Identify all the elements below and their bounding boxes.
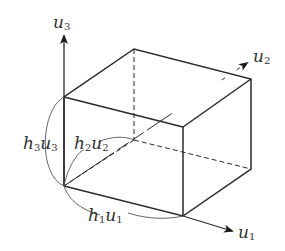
h2u2-label: h2u2 (74, 135, 109, 153)
u1-axis-label: u1 (238, 224, 255, 242)
u3-axis-label: u3 (53, 14, 70, 32)
label-arcs (45, 97, 183, 218)
box-hidden-edges (64, 49, 251, 186)
u1-axis-arrow (183, 216, 232, 231)
h1u1-label: h1u1 (88, 207, 123, 225)
h3u3-label: h3u3 (23, 135, 58, 153)
box-drawing (0, 0, 285, 251)
u2-axis-label: u2 (253, 48, 270, 66)
box-diagram: u3 u2 u1 h3u3 h2u2 h1u1 (0, 0, 285, 251)
